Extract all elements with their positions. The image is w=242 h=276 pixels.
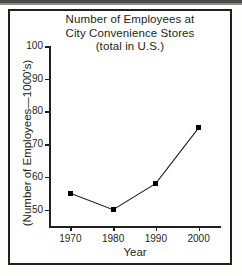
data-point-2000 (196, 125, 201, 130)
data-point-1980 (111, 207, 116, 212)
data-point-1990 (153, 181, 158, 186)
chart-page: Number of Employees at City Convenience … (0, 0, 242, 276)
series-line-path (0, 0, 242, 276)
x-axis-label: Year (49, 246, 221, 258)
data-point-1970 (68, 191, 73, 196)
